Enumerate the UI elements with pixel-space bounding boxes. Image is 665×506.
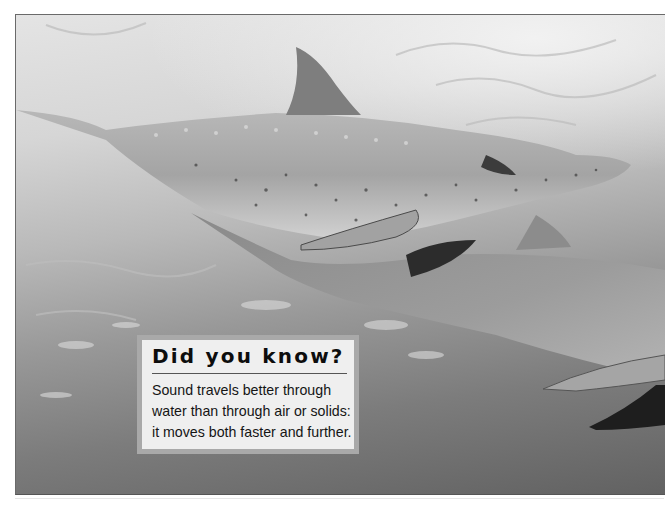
fact-box-body: Sound travels better through water than …: [152, 380, 357, 443]
fact-box-title: Did you know?: [152, 344, 345, 368]
did-you-know-box: Did you know? Sound travels better throu…: [137, 335, 359, 454]
page-divider: [15, 498, 664, 499]
fact-line: water than through air or solids:: [152, 403, 351, 419]
fact-line: Sound travels better through: [152, 382, 331, 398]
title-underline: [152, 373, 347, 374]
fact-line: it moves both faster and further.: [152, 424, 352, 440]
